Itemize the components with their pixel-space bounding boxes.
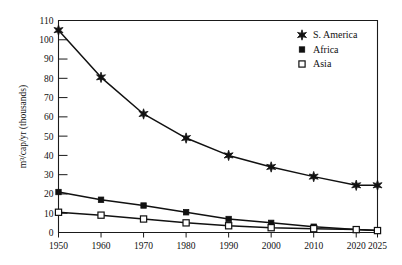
y-axis-tick-label: 40	[44, 151, 54, 161]
y-axis-tick-label: 60	[44, 112, 54, 122]
data-point-marker	[140, 216, 146, 222]
y-axis-tick-label: 20	[44, 189, 54, 199]
data-point-marker	[141, 203, 146, 208]
x-axis-tick-label: 1980	[177, 241, 196, 251]
data-point-marker	[226, 223, 232, 229]
data-point-marker	[183, 210, 188, 215]
y-axis-tick-label: 50	[44, 132, 54, 142]
legend-entry: Asia	[299, 58, 332, 69]
data-point-marker	[182, 133, 191, 143]
legend-label: Africa	[313, 44, 339, 55]
legend-label: Asia	[313, 58, 332, 69]
x-axis-tick-label: 1960	[92, 241, 111, 251]
data-point-marker	[55, 209, 61, 215]
data-point-marker	[56, 189, 61, 194]
filled-square-icon	[299, 47, 304, 52]
legend-entry: Africa	[299, 44, 339, 55]
line-chart-canvas: 0102030405060708090100110195019601970198…	[0, 0, 402, 265]
star-icon	[298, 30, 307, 40]
y-axis-tick-label: 100	[39, 35, 54, 45]
x-axis-tick-label: 1950	[49, 241, 68, 251]
y-axis-tick-label: 110	[40, 16, 54, 26]
open-square-icon	[299, 61, 305, 67]
y-axis-tick-label: 10	[44, 209, 54, 219]
y-axis-tick-label: 80	[44, 74, 54, 84]
data-point-marker	[224, 150, 233, 160]
data-point-marker	[98, 197, 103, 202]
x-axis-tick-label: 2025	[368, 241, 387, 251]
x-axis-tick-label: 2010	[304, 241, 323, 251]
data-point-marker	[98, 212, 104, 218]
data-point-marker	[226, 216, 231, 221]
y-axis-title: m³/cap/yr (thousands)	[18, 85, 29, 168]
legend-entry: S. America	[298, 29, 358, 40]
x-axis-tick-label: 1970	[134, 241, 153, 251]
legend-label: S. America	[313, 29, 358, 40]
data-point-marker	[311, 226, 317, 232]
data-point-marker	[183, 220, 189, 226]
x-axis-tick-label: 2000	[262, 241, 281, 251]
x-axis-tick-label: 2020	[347, 241, 366, 251]
y-axis-tick-label: 0	[49, 228, 54, 238]
data-point-marker	[374, 227, 380, 233]
y-axis-tick-label: 30	[44, 170, 54, 180]
x-axis-tick-label: 1990	[219, 241, 238, 251]
chart-figure: 0102030405060708090100110195019601970198…	[0, 0, 402, 265]
y-axis-tick-label: 90	[44, 54, 54, 64]
data-point-marker	[353, 227, 359, 233]
y-axis-tick-label: 70	[44, 93, 54, 103]
data-point-marker	[268, 225, 274, 231]
